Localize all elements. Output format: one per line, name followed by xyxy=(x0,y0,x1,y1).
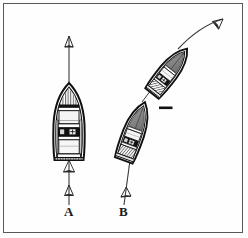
vessel-label-b: B xyxy=(119,205,128,218)
track-b-approach xyxy=(121,160,131,205)
boat-a xyxy=(53,83,84,160)
boat-b-start xyxy=(114,98,156,164)
nautical-diagram xyxy=(0,0,248,238)
vessel-label-a: A xyxy=(64,205,73,218)
dash-mark xyxy=(159,107,173,110)
boat-b-turned xyxy=(144,43,195,100)
figure-container: A B xyxy=(0,0,248,238)
